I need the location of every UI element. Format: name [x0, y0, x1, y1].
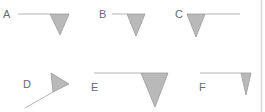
option-d-triangle-icon [51, 73, 69, 92]
option-e-triangle-icon [141, 73, 168, 107]
option-a: A [3, 8, 69, 35]
option-c-triangle-icon [187, 14, 205, 37]
option-a-label: A [3, 8, 11, 20]
option-c: C [175, 8, 240, 37]
option-f-triangle-icon [241, 73, 251, 95]
option-f: F [199, 73, 251, 95]
option-b-label: B [99, 8, 106, 20]
option-e-label: E [91, 81, 98, 93]
pennant-options-diagram: A B C D E F [0, 0, 265, 112]
option-c-label: C [175, 8, 183, 20]
option-d-label: D [23, 78, 31, 90]
option-a-triangle-icon [50, 14, 69, 35]
option-b-triangle-icon [127, 14, 145, 36]
option-b: B [99, 8, 145, 36]
option-d-line [25, 92, 53, 108]
option-d: D [23, 73, 69, 108]
option-f-label: F [199, 81, 206, 93]
option-e: E [91, 73, 168, 107]
